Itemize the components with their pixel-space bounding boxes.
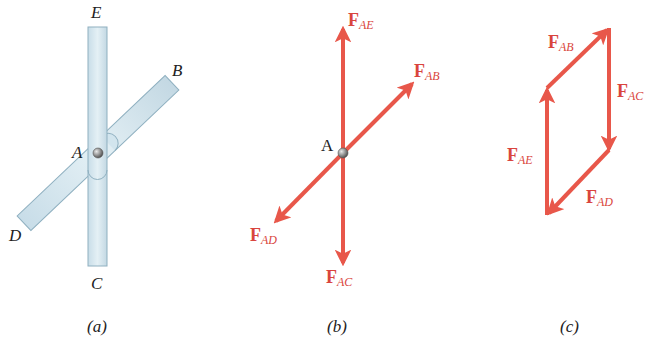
polygon-label-ac: FAC	[617, 81, 644, 103]
panel-a: E B A D C (a)	[8, 3, 183, 336]
joint-label-a: A	[321, 136, 334, 155]
panel-c: FAB FAC FAE FAD (c)	[507, 28, 644, 336]
force-arrow-ad	[276, 153, 343, 221]
force-label-ab: FAB	[414, 61, 440, 83]
point-label-e: E	[90, 3, 102, 22]
caption-c: (c)	[560, 317, 579, 336]
force-label-ad: FAD	[250, 225, 277, 247]
polygon-label-ad: FAD	[586, 187, 613, 209]
pin-joint-a	[93, 148, 103, 158]
point-label-c: C	[91, 274, 103, 293]
caption-a: (a)	[87, 317, 107, 336]
force-label-ae: FAE	[348, 10, 374, 32]
panel-b: A FAE FAB FAD FAC (b)	[250, 10, 440, 336]
force-diagram-figure: E B A D C (a) A FAE FAB FAD FAC (b)	[0, 0, 660, 352]
bar-ec	[88, 27, 107, 266]
polygon-label-ae: FAE	[507, 145, 533, 167]
force-label-ac: FAC	[326, 267, 353, 289]
point-label-a: A	[71, 143, 83, 162]
point-label-b: B	[172, 61, 183, 80]
caption-b: (b)	[327, 317, 347, 336]
pin-joint-a	[338, 148, 348, 158]
polygon-label-ab: FAB	[548, 32, 574, 54]
point-label-d: D	[8, 226, 22, 245]
force-arrow-ab	[343, 84, 412, 153]
